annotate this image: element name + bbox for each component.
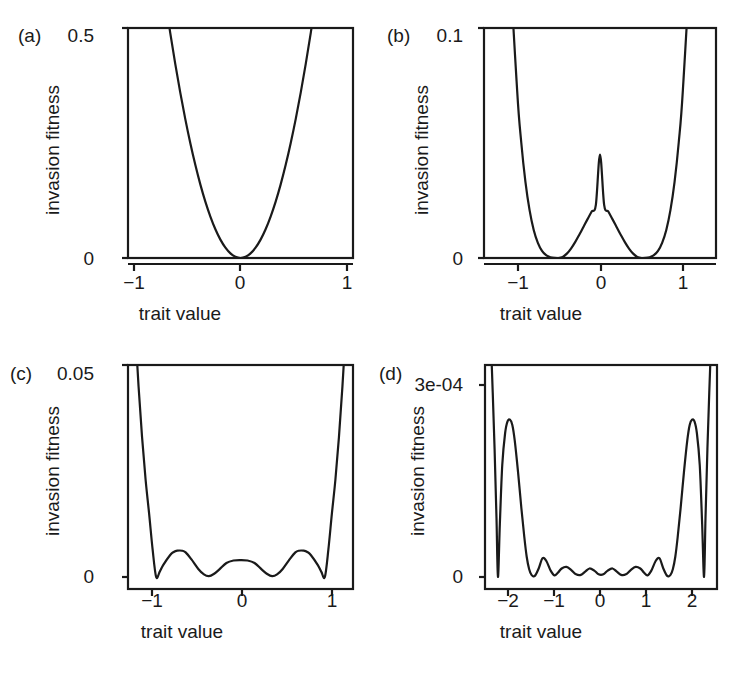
panel-b-plot (369, 0, 738, 341)
panel-d: (d) 3e-04 0 invasion fitness −2 −1 0 1 2… (369, 341, 738, 682)
panel-a: (a) 0.5 0 invasion fitness −1 0 1 trait … (0, 0, 369, 341)
panel-b: (b) 0.1 0 invasion fitness −1 0 1 trait … (369, 0, 738, 341)
panel-d-plot (369, 341, 738, 682)
panel-c: (c) 0.05 0 invasion fitness −1 0 1 trait… (0, 341, 369, 682)
panel-a-curve (128, 0, 353, 258)
panel-b-axes (478, 28, 716, 271)
panel-b-curve (484, 0, 716, 258)
panel-a-plot (0, 0, 369, 341)
panel-a-axes (122, 28, 353, 271)
panel-c-axes (122, 365, 353, 596)
panel-c-plot (0, 341, 369, 682)
panel-d-axes (479, 365, 717, 596)
figure-panel-grid: (a) 0.5 0 invasion fitness −1 0 1 trait … (0, 0, 738, 683)
